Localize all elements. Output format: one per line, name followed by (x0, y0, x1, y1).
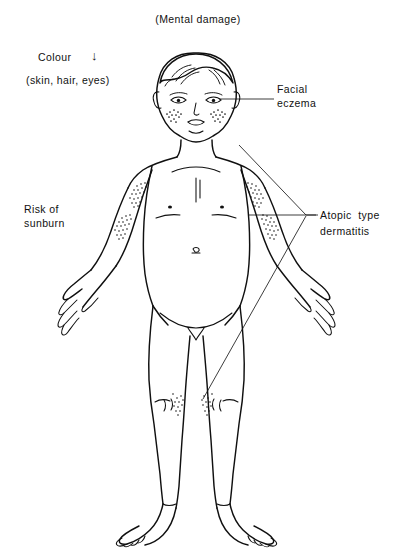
torso-outline (128, 140, 265, 340)
label-atopic-line1: Atopic type (320, 209, 380, 222)
left-arm (58, 170, 152, 335)
label-facial-eczema-line2: eczema (277, 97, 316, 110)
lesion-right-elbow (261, 214, 279, 240)
legs (116, 306, 276, 547)
head-outline (153, 53, 240, 142)
label-colour: Colour (38, 51, 71, 64)
label-sunburn-line1: Risk of (24, 203, 59, 216)
face-features (170, 93, 222, 134)
lesion-right-shoulder (246, 182, 264, 208)
knee-creases (164, 399, 221, 411)
lesion-left-shoulder (129, 182, 147, 208)
label-mental-damage: (Mental damage) (138, 13, 258, 26)
label-facial-eczema-line1: Facial (277, 83, 307, 96)
label-sunburn-line2: sunburn (24, 217, 65, 230)
lesion-left-cheek (166, 109, 182, 123)
lesion-left-elbow (114, 214, 132, 240)
hair (160, 54, 233, 86)
label-colour-sites: (skin, hair, eyes) (26, 74, 110, 87)
right-arm (241, 170, 335, 335)
lesion-right-knee (201, 393, 213, 416)
lesion-left-knee (172, 393, 184, 416)
down-arrow-icon: ↓ (91, 49, 98, 62)
label-atopic-line2: dermatitis (320, 225, 370, 238)
diagram-canvas: (Mental damage) Colour ↓ (skin, hair, ey… (0, 0, 393, 560)
leader-lines (203, 99, 318, 399)
lesion-right-cheek (210, 109, 226, 123)
